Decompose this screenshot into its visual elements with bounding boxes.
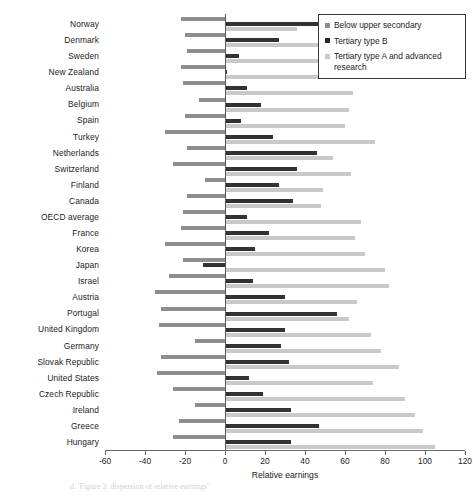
- bar-row: Japan: [105, 257, 465, 273]
- x-tick-label: 120: [458, 456, 472, 466]
- zero-minor-tick: [222, 357, 225, 358]
- bar-1: [225, 344, 281, 348]
- x-tick: [425, 451, 426, 455]
- legend-label: Tertiary type A and advanced research: [334, 51, 459, 72]
- category-label: Sweden: [68, 51, 99, 61]
- zero-minor-tick: [222, 373, 225, 374]
- bar-1: [225, 38, 279, 42]
- x-tick-label: 100: [418, 456, 432, 466]
- zero-minor-tick: [222, 51, 225, 52]
- bar-1: [225, 440, 291, 444]
- zero-minor-tick: [222, 148, 225, 149]
- category-label: Czech Republic: [39, 389, 99, 399]
- zero-minor-tick: [222, 212, 225, 213]
- bar-0: [173, 387, 225, 391]
- x-tick-label: 80: [380, 456, 389, 466]
- x-tick: [265, 451, 266, 455]
- x-axis-title: Relative earnings: [252, 470, 318, 480]
- bar-0: [173, 162, 225, 166]
- bar-0: [159, 323, 225, 327]
- bar-2: [225, 268, 385, 272]
- bar-1: [225, 231, 269, 235]
- bar-row: Switzerland: [105, 161, 465, 177]
- legend-swatch-icon: [325, 38, 330, 43]
- category-label: Netherlands: [53, 148, 99, 158]
- bar-0: [187, 146, 225, 150]
- bar-1: [225, 360, 289, 364]
- bar-1: [225, 408, 291, 412]
- zero-minor-tick: [222, 389, 225, 390]
- bar-2: [225, 156, 333, 160]
- x-tick: [105, 451, 106, 455]
- bar-1: [225, 424, 319, 428]
- bar-0: [187, 194, 225, 198]
- bar-0: [165, 130, 225, 134]
- zero-minor-tick: [222, 244, 225, 245]
- bar-0: [179, 419, 225, 423]
- legend-item: Tertiary type A and advanced research: [325, 51, 459, 72]
- bar-2: [225, 252, 365, 256]
- bar-0: [155, 290, 225, 294]
- x-tick-label: -20: [179, 456, 191, 466]
- bar-2: [225, 429, 423, 433]
- x-tick-label: 20: [260, 456, 269, 466]
- bar-1: [225, 247, 255, 251]
- bar-row: France: [105, 225, 465, 241]
- bar-2: [225, 172, 351, 176]
- bar-2: [225, 333, 371, 337]
- x-tick: [185, 451, 186, 455]
- bar-2: [225, 397, 405, 401]
- zero-minor-tick: [222, 99, 225, 100]
- bar-2: [225, 349, 381, 353]
- bar-1: [225, 312, 337, 316]
- bar-row: Slovak Republic: [105, 354, 465, 370]
- category-label: Ireland: [73, 405, 99, 415]
- bar-1: [225, 328, 285, 332]
- bar-1: [203, 263, 225, 267]
- bar-0: [157, 371, 225, 375]
- bar-0: [165, 242, 225, 246]
- bar-2: [225, 284, 389, 288]
- bar-row: United Kingdom: [105, 321, 465, 337]
- category-label: Greece: [71, 421, 99, 431]
- bar-0: [161, 307, 225, 311]
- x-tick: [465, 451, 466, 455]
- bar-0: [195, 403, 225, 407]
- bar-row: OECD average: [105, 209, 465, 225]
- bar-2: [225, 381, 373, 385]
- chart-legend: Below upper secondary Tertiary type B Te…: [318, 14, 466, 79]
- category-label: Japan: [76, 260, 99, 270]
- zero-minor-tick: [222, 437, 225, 438]
- bar-0: [181, 65, 225, 69]
- bar-2: [225, 108, 349, 112]
- zero-minor-tick: [222, 180, 225, 181]
- legend-label: Tertiary type B: [334, 36, 388, 47]
- zero-minor-tick: [222, 19, 225, 20]
- bar-0: [195, 339, 225, 343]
- category-label: Australia: [66, 83, 99, 93]
- zero-minor-tick: [222, 260, 225, 261]
- bar-row: Israel: [105, 273, 465, 289]
- bar-0: [161, 355, 225, 359]
- bar-0: [169, 274, 225, 278]
- x-tick: [305, 451, 306, 455]
- zero-axis-line: [225, 14, 226, 450]
- bar-2: [225, 236, 355, 240]
- bar-row: United States: [105, 370, 465, 386]
- category-label: Slovak Republic: [37, 357, 99, 367]
- bar-1: [225, 119, 241, 123]
- x-axis-line: [105, 450, 465, 451]
- category-label: Korea: [76, 244, 99, 254]
- bar-0: [173, 435, 225, 439]
- bar-0: [185, 33, 225, 37]
- category-label: New Zealand: [49, 67, 99, 77]
- legend-item: Below upper secondary: [325, 20, 459, 31]
- bar-2: [225, 317, 349, 321]
- x-tick: [345, 451, 346, 455]
- zero-minor-tick: [222, 341, 225, 342]
- bar-2: [225, 204, 321, 208]
- bar-row: Portugal: [105, 305, 465, 321]
- bar-1: [225, 103, 261, 107]
- category-label: Norway: [70, 19, 99, 29]
- zero-minor-tick: [222, 83, 225, 84]
